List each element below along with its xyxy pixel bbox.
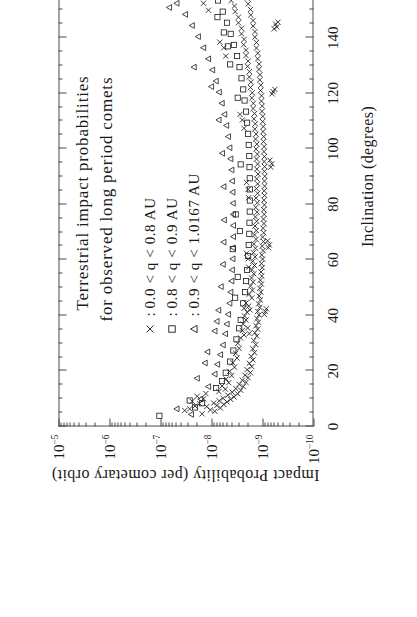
y-axis-tick [114, 423, 115, 427]
x-axis-tick [310, 120, 314, 121]
x-axis-tick [59, 176, 63, 177]
x-tick-label: 100 [326, 137, 341, 160]
x-tick-label: 60 [326, 252, 341, 267]
y-axis-tick [79, 423, 80, 427]
y-axis-tick [223, 423, 224, 427]
x-axis-tick [306, 92, 314, 93]
x-axis-tick [306, 148, 314, 149]
y-axis-tick [232, 423, 233, 427]
x-axis-tick [310, 231, 314, 232]
x-axis-tick [59, 231, 63, 232]
x-axis-title: Inclination (degrees) [359, 106, 377, 247]
y-axis-tick [219, 423, 220, 427]
y-axis-tick [283, 423, 284, 427]
x-axis-tick [306, 314, 314, 315]
y-axis-tick [121, 423, 122, 427]
x-axis-tick [59, 51, 63, 52]
y-axis-tick [117, 423, 118, 427]
x-axis-tick [310, 384, 314, 385]
x-axis-tick [310, 134, 314, 135]
x-axis-tick [310, 245, 314, 246]
x-axis-tick [310, 78, 314, 79]
y-axis-tick [270, 423, 271, 427]
x-axis-tick [59, 287, 63, 288]
y-axis-tick [145, 423, 146, 427]
x-axis-tick [59, 259, 67, 260]
x-axis-tick [310, 356, 314, 357]
y-axis-tick [161, 419, 162, 427]
x-axis-tick [59, 92, 67, 93]
x-tick-label: 0 [326, 423, 341, 431]
x-axis-tick [59, 78, 63, 79]
y-axis-tick [212, 419, 213, 427]
y-axis-tick [59, 419, 60, 427]
x-axis-tick [310, 162, 314, 163]
x-axis-tick [310, 301, 314, 302]
x-axis-tick [59, 134, 63, 135]
y-axis-tick [163, 423, 164, 427]
y-axis-tick [289, 423, 290, 427]
x-axis-tick [59, 301, 63, 302]
chart-rotated-container: Terrestrial impact probabilities for obs… [29, 0, 389, 489]
y-axis-tick [70, 423, 71, 427]
x-axis-tick [310, 9, 314, 10]
plot-area [59, 0, 314, 427]
x-axis-tick [310, 287, 314, 288]
y-axis-tick [265, 423, 266, 427]
x-tick-label: 40 [326, 308, 341, 323]
x-axis-tick [310, 189, 314, 190]
x-axis-tick [59, 106, 63, 107]
series-triangle [133, 0, 235, 417]
x-axis-tick [310, 23, 314, 24]
y-axis-tick [168, 423, 169, 427]
x-axis-tick [59, 356, 63, 357]
x-axis-tick [310, 328, 314, 329]
y-axis-tick [187, 423, 188, 427]
x-axis-tick [59, 162, 63, 163]
x-tick-label: 80 [326, 197, 341, 212]
series-cross [182, 0, 280, 416]
y-axis-tick [196, 423, 197, 427]
x-axis-tick [306, 370, 314, 371]
x-axis-tick [59, 245, 63, 246]
x-axis-tick [59, 23, 63, 24]
y-axis-tick [298, 423, 299, 427]
x-axis-tick [306, 259, 314, 260]
x-axis-tick [59, 342, 63, 343]
y-axis-tick [227, 423, 228, 427]
x-axis-tick [306, 37, 314, 38]
x-axis-tick [310, 217, 314, 218]
x-axis-tick [59, 217, 63, 218]
y-axis-tick [267, 423, 268, 427]
x-axis-tick [310, 106, 314, 107]
y-axis-tick [172, 423, 173, 427]
y-axis-tick [238, 423, 239, 427]
x-axis-tick [59, 148, 67, 149]
x-axis-tick [310, 342, 314, 343]
x-axis-tick [59, 314, 67, 315]
x-axis-tick [306, 426, 314, 427]
y-axis-tick [165, 423, 166, 427]
x-axis-tick [59, 9, 63, 10]
x-axis-tick [59, 37, 67, 38]
y-axis-tick [176, 423, 177, 427]
y-axis-tick [216, 423, 217, 427]
y-axis-tick [112, 423, 113, 427]
x-axis-tick [59, 273, 63, 274]
scatter-markers [60, 0, 313, 426]
x-axis-tick [59, 203, 67, 204]
x-axis-tick [59, 189, 63, 190]
x-tick-label: 20 [326, 363, 341, 378]
y-axis-tick [63, 423, 64, 427]
y-axis-tick [314, 419, 315, 427]
y-axis-tick [274, 423, 275, 427]
figure-root: Terrestrial impact probabilities for obs… [0, 0, 417, 617]
x-tick-label: 120 [326, 82, 341, 105]
x-axis-tick [59, 412, 63, 413]
y-axis-tick [66, 423, 67, 427]
x-axis-tick [59, 64, 63, 65]
x-axis-tick [59, 384, 63, 385]
scatter-data-layer [60, 0, 313, 426]
x-axis-tick [310, 64, 314, 65]
y-axis-tick [278, 423, 279, 427]
